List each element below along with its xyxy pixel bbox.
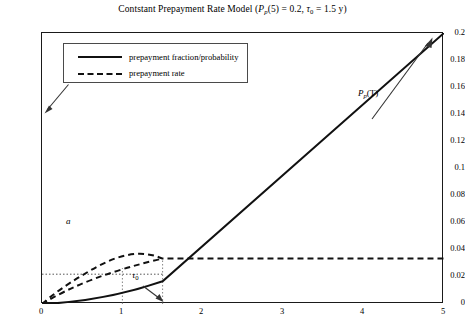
chart-figure: Contstant Prepayment Rate Model (Pp(5) =… xyxy=(0,0,465,327)
annotation-a-text: a xyxy=(66,216,71,226)
legend-solid-line-icon xyxy=(78,56,122,58)
xtick-label-1: 1 xyxy=(110,307,132,315)
xtick-label-4: 4 xyxy=(351,307,373,315)
annotation-a-label: a xyxy=(66,216,71,226)
title-main-text: Contstant Prepayment Rate Model ( xyxy=(118,4,258,14)
annotation-arrow-a xyxy=(45,85,69,114)
annotation-tau-subscript: 0 xyxy=(135,274,138,281)
chart-title: Contstant Prepayment Rate Model (Pp(5) =… xyxy=(0,4,465,15)
xtick-label-3: 3 xyxy=(271,307,293,315)
legend-label-prepayment-rate: prepayment rate xyxy=(129,65,185,81)
title-tau-value: = 1.5 y) xyxy=(314,4,347,14)
annotation-pp-argument: (T) xyxy=(367,88,379,98)
annotation-arrow-tau0 xyxy=(143,286,164,302)
annotation-arrow-pp xyxy=(372,38,433,120)
annotation-pp-label: Pp(T) xyxy=(358,88,378,99)
legend-dashed-line-icon xyxy=(78,73,122,75)
xtick-label-0: 0 xyxy=(30,307,52,315)
chart-legend: prepayment fraction/probability prepayme… xyxy=(63,43,248,83)
title-p-argument: (5) = 0.2, xyxy=(268,4,307,14)
xtick-label-2: 2 xyxy=(190,307,212,315)
annotation-tau0-label: τ0 xyxy=(132,270,139,281)
legend-label-prepayment-fraction: prepayment fraction/probability xyxy=(129,49,239,65)
xtick-label-5: 5 xyxy=(432,307,454,315)
